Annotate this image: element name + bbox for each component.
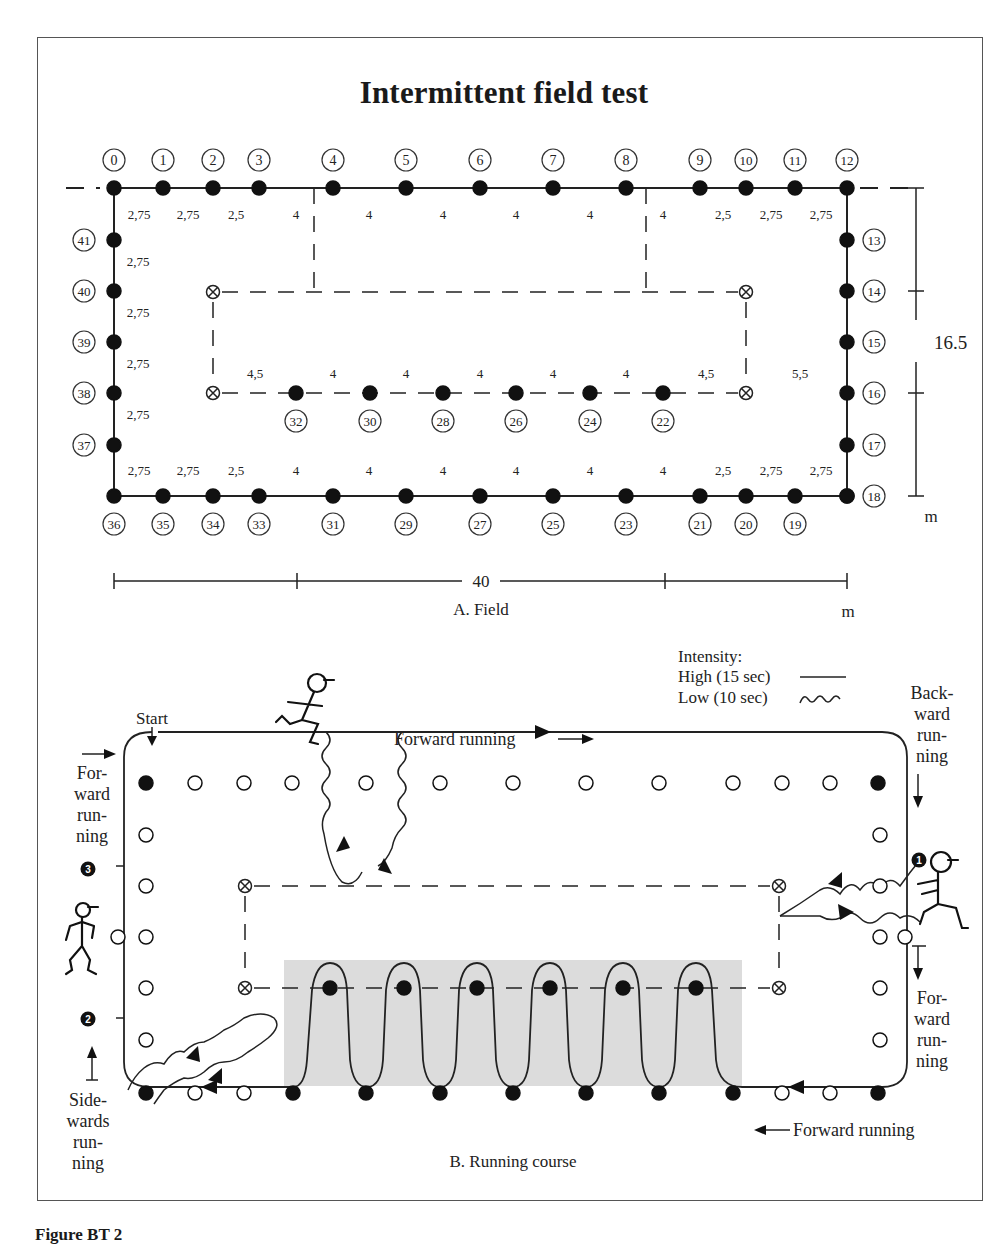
point-label-33: 33	[248, 513, 270, 535]
field-cones	[207, 286, 753, 400]
marker-dot	[107, 386, 121, 400]
inner-dashed-verticals	[314, 188, 646, 292]
svg-text:32: 32	[290, 414, 303, 429]
point-label-37: 37	[73, 434, 95, 456]
point-label-21: 21	[689, 513, 711, 535]
point-label-0: 0	[103, 149, 125, 171]
svg-text:31: 31	[327, 517, 340, 532]
marker-dot	[359, 1086, 373, 1100]
marker-dot	[252, 181, 266, 195]
marker-dot	[546, 181, 560, 195]
svg-text:25: 25	[547, 517, 560, 532]
point-label-40: 40	[73, 280, 95, 302]
marker-dot	[840, 181, 854, 195]
svg-text:19: 19	[789, 517, 802, 532]
marker-dot	[619, 181, 633, 195]
marker-dot	[107, 438, 121, 452]
open-marker-dot	[139, 879, 153, 893]
point-label-8: 8	[615, 149, 637, 171]
arrow-down-icon	[913, 968, 923, 980]
svg-text:2: 2	[85, 1014, 91, 1025]
svg-text:4: 4	[330, 153, 337, 168]
distance-label: 2,5	[228, 207, 244, 222]
open-marker-dot	[139, 828, 153, 842]
point-label-41: 41	[73, 229, 95, 251]
legend-low: Low (10 sec)	[678, 688, 768, 707]
distance-label: 4	[513, 463, 520, 478]
marker-dot	[871, 776, 885, 790]
point-label-7: 7	[542, 149, 564, 171]
marker-dot	[619, 489, 633, 503]
distance-label: 4	[293, 207, 300, 222]
open-marker-dot	[237, 776, 251, 790]
legend-low-wave	[800, 696, 840, 703]
marker-dot	[107, 489, 121, 503]
open-marker-dot	[188, 1086, 202, 1100]
start-arrow-icon	[147, 736, 157, 746]
arrow-right-icon	[104, 749, 116, 759]
point-label-4: 4	[322, 149, 344, 171]
svg-text:28: 28	[437, 414, 450, 429]
distance-label: 2,75	[128, 207, 151, 222]
marker-dot	[473, 181, 487, 195]
marker-dot	[399, 181, 413, 195]
distance-label: 2,75	[760, 463, 783, 478]
distance-label: 2,5	[228, 463, 244, 478]
svg-text:7: 7	[550, 153, 557, 168]
arrow-down-icon	[913, 796, 923, 808]
point-label-23: 23	[615, 513, 637, 535]
marker-dot	[788, 181, 802, 195]
open-marker-dot	[433, 776, 447, 790]
sideways-runner-figure-icon	[66, 903, 98, 974]
point-label-31: 31	[322, 513, 344, 535]
distance-label: 4	[623, 366, 630, 381]
point-label-16: 16	[863, 382, 885, 404]
label-forward-running-bottom: Forward running	[793, 1120, 914, 1140]
marker-dot	[470, 981, 484, 995]
unit-right: m	[924, 507, 937, 526]
marker-dot	[206, 181, 220, 195]
cone-marker-icon	[740, 387, 753, 400]
start-label: Start	[136, 709, 168, 728]
cone-marker-icon	[773, 982, 786, 995]
point-label-6: 6	[469, 149, 491, 171]
course-caption: B. Running course	[449, 1152, 576, 1171]
point-label-17: 17	[863, 434, 885, 456]
step-marker-3: 3	[81, 862, 96, 877]
open-marker-dot	[506, 776, 520, 790]
svg-text:36: 36	[108, 517, 122, 532]
point-label-19: 19	[784, 513, 806, 535]
svg-text:0: 0	[111, 153, 118, 168]
cone-marker-icon	[773, 880, 786, 893]
marker-dot	[693, 181, 707, 195]
marker-dot	[543, 981, 557, 995]
svg-text:37: 37	[78, 438, 92, 453]
distance-label: 4	[513, 207, 520, 222]
marker-dot	[399, 489, 413, 503]
distance-label: 4	[477, 366, 484, 381]
label-sidewards-running-left: Side-wardsrun-ning	[67, 1090, 110, 1173]
arrow-left-icon	[754, 1125, 766, 1135]
point-label-39: 39	[73, 331, 95, 353]
svg-text:38: 38	[78, 386, 91, 401]
distance-label: 2,5	[715, 463, 731, 478]
svg-text:24: 24	[584, 414, 598, 429]
marker-dot	[156, 181, 170, 195]
svg-text:9: 9	[697, 153, 704, 168]
distance-label: 4	[403, 366, 410, 381]
distance-label: 2,75	[127, 356, 150, 371]
point-label-24: 24	[579, 410, 601, 432]
svg-text:39: 39	[78, 335, 91, 350]
marker-dot	[509, 386, 523, 400]
point-label-38: 38	[73, 382, 95, 404]
distance-label: 4	[366, 463, 373, 478]
marker-dot	[473, 489, 487, 503]
svg-text:12: 12	[841, 153, 854, 168]
svg-text:22: 22	[657, 414, 670, 429]
marker-dot	[326, 489, 340, 503]
marker-dot	[693, 489, 707, 503]
field-height-label: 16.5	[934, 332, 967, 353]
open-marker-dot	[237, 1086, 251, 1100]
svg-text:26: 26	[510, 414, 524, 429]
open-marker-dot	[652, 776, 666, 790]
